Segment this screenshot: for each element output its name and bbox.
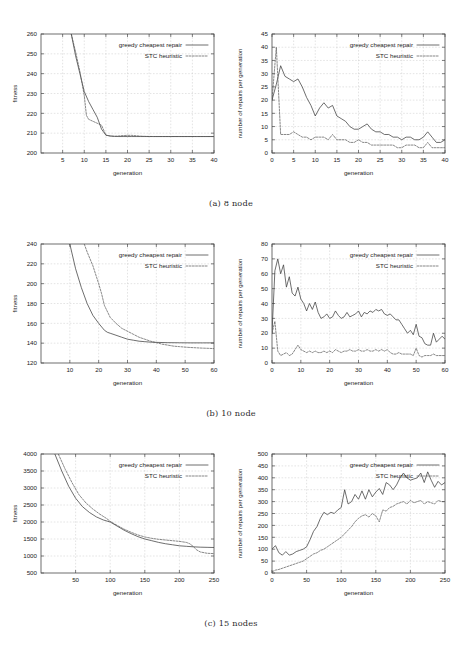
x-tick-label: 5 [292,156,296,163]
x-tick-label: 30 [355,366,362,373]
y-tick-label: 220 [27,260,38,267]
legend-label-1: greedy cheapest repair [119,461,182,468]
x-tick-label: 200 [405,576,416,583]
panel-row-a: 200210220230240250260510152025303540gene… [0,16,462,196]
legend-label-2: STC heuristic [145,262,182,269]
legend-label-2: STC heuristic [145,472,182,479]
x-tick-label: 150 [140,576,151,583]
x-tick-label: 30 [124,366,131,373]
legend-label-1: greedy cheapest repair [350,251,413,258]
y-tick-label: 5 [265,136,269,143]
y-tick-label: 140 [27,339,38,346]
y-tick-label: 400 [258,474,269,481]
y-tick-label: 230 [27,90,38,97]
x-tick-label: 100 [336,576,347,583]
y-tick-label: 3500 [23,467,37,474]
y-tick-label: 50 [261,285,268,292]
chart-b-fitness-svg: 120140160180200220240102030405060generat… [0,226,231,406]
chart-c-fitness-svg: 5001000150020002500300035004000501001502… [0,436,231,616]
y-tick-label: 15 [261,110,268,117]
y-tick-label: 200 [27,149,38,156]
y-tick-label: 10 [261,344,268,351]
y-tick-label: 70 [261,255,268,262]
y-tick-label: 160 [27,320,38,327]
x-tick-label: 100 [105,576,116,583]
x-tick-label: 60 [211,366,218,373]
y-tick-label: 0 [265,569,269,576]
y-tick-label: 200 [258,522,269,529]
y-tick-label: 30 [261,70,268,77]
chart-a-fitness: 200210220230240250260510152025303540gene… [0,16,231,196]
x-axis-title: generation [113,589,143,596]
panel-row-c: 5001000150020002500300035004000501001502… [0,436,462,616]
y-tick-label: 0 [265,149,269,156]
x-tick-label: 30 [398,156,405,163]
x-tick-label: 50 [413,366,420,373]
figure-block-c: 5001000150020002500300035004000501001502… [0,436,462,616]
x-tick-label: 50 [182,366,189,373]
y-tick-label: 210 [27,129,38,136]
x-axis-title: generation [113,379,143,386]
x-tick-label: 30 [167,156,174,163]
x-tick-label: 0 [270,366,274,373]
chart-a-fitness-svg: 200210220230240250260510152025303540gene… [0,16,231,196]
series-2-line [84,244,214,349]
chart-c-repairs-svg: 0501001502002503003504004505000501001502… [231,436,462,616]
caption-a: (a) 8 node [0,198,462,208]
x-tick-label: 10 [81,156,88,163]
y-tick-label: 50 [261,557,268,564]
y-tick-label: 200 [27,280,38,287]
x-tick-label: 50 [72,576,79,583]
y-tick-label: 25 [261,83,268,90]
legend-label-1: greedy cheapest repair [119,41,182,48]
y-tick-label: 450 [258,462,269,469]
series-2-line [272,321,445,357]
y-tick-label: 300 [258,498,269,505]
x-tick-label: 40 [211,156,218,163]
x-tick-label: 50 [303,576,310,583]
y-axis-title: number of repairs per generation [236,468,243,559]
x-tick-label: 10 [66,366,73,373]
y-tick-label: 40 [261,43,268,50]
y-tick-label: 40 [261,300,268,307]
x-axis-title: generation [344,379,374,386]
chart-c-repairs: 0501001502002503003504004505000501001502… [231,436,462,616]
y-tick-label: 1500 [23,535,37,542]
x-tick-label: 150 [371,576,382,583]
y-tick-label: 80 [261,240,268,247]
x-tick-label: 0 [270,156,274,163]
y-axis-title: number of repairs per generation [236,48,243,139]
y-tick-label: 20 [261,96,268,103]
legend-label-2: STC heuristic [376,52,413,59]
legend-label-1: greedy cheapest repair [119,251,182,258]
legend-label-1: greedy cheapest repair [350,461,413,468]
x-tick-label: 20 [326,366,333,373]
chart-a-repairs: 0510152025303540450510152025303540genera… [231,16,462,196]
legend-label-2: STC heuristic [376,262,413,269]
y-tick-label: 350 [258,486,269,493]
y-axis-title: fitness [11,505,18,523]
x-axis-title: generation [344,169,374,176]
x-tick-label: 250 [209,576,220,583]
y-tick-label: 35 [261,57,268,64]
y-tick-label: 2500 [23,501,37,508]
x-tick-label: 60 [442,366,449,373]
legend-label-2: STC heuristic [145,52,182,59]
y-tick-label: 0 [265,359,269,366]
x-tick-label: 40 [442,156,449,163]
x-tick-label: 0 [270,576,274,583]
x-tick-label: 250 [440,576,451,583]
x-tick-label: 20 [124,156,131,163]
chart-b-repairs: 010203040506070800102030405060generation… [231,226,462,406]
chart-b-repairs-svg: 010203040506070800102030405060generation… [231,226,462,406]
y-tick-label: 4000 [23,450,37,457]
x-tick-label: 5 [61,156,65,163]
x-tick-label: 20 [95,366,102,373]
x-axis-title: generation [344,589,374,596]
x-tick-label: 35 [420,156,427,163]
chart-c-fitness: 5001000150020002500300035004000501001502… [0,436,231,616]
y-tick-label: 150 [258,534,269,541]
y-tick-label: 250 [27,50,38,57]
y-axis-title: number of repairs per generation [236,258,243,349]
y-tick-label: 180 [27,300,38,307]
